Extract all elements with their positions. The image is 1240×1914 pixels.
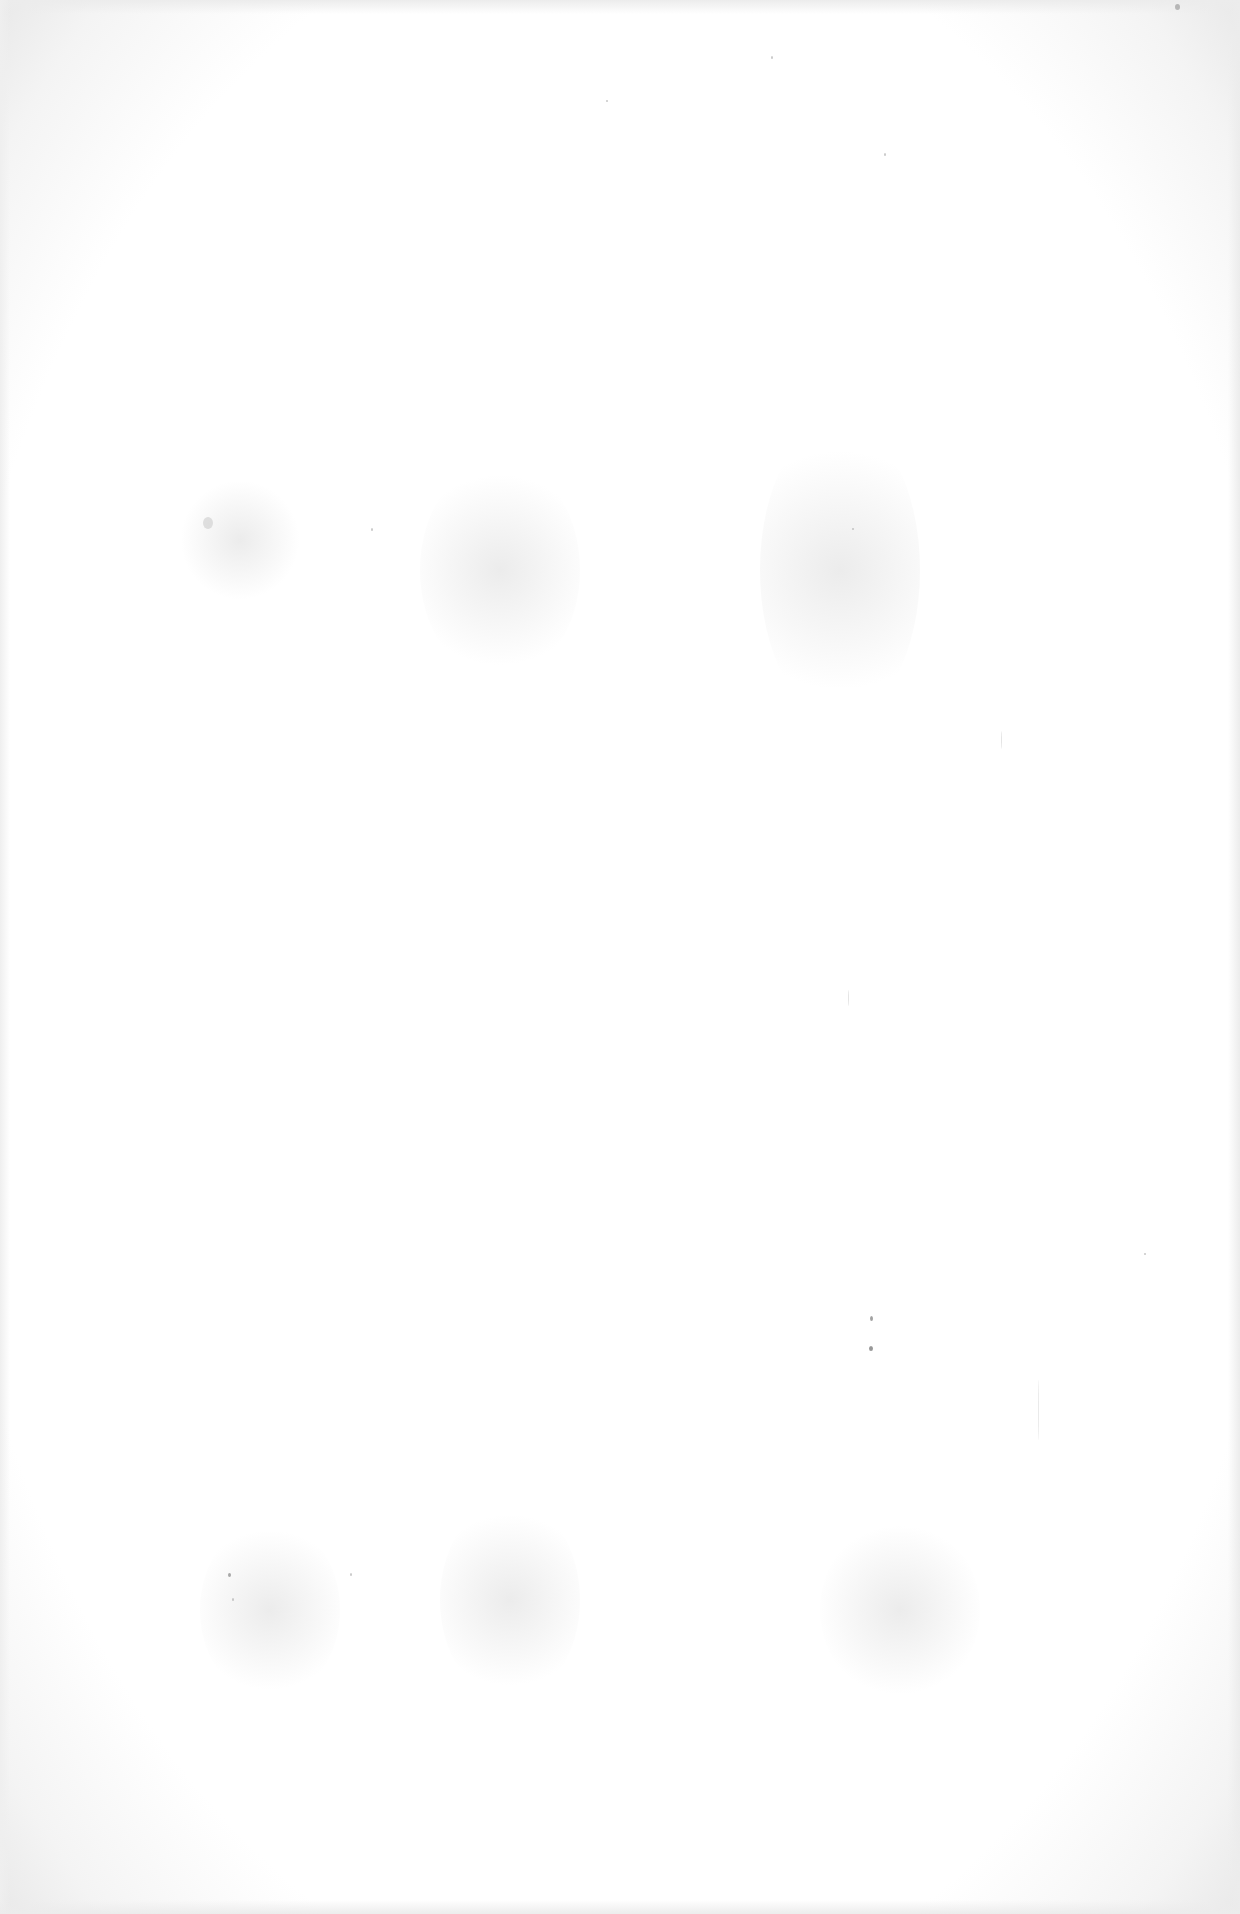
scan-speck: [232, 1598, 234, 1601]
scan-speck: [606, 100, 608, 102]
scan-speck: [1175, 4, 1180, 10]
show-through-smudge: [420, 460, 580, 680]
page-edge-shadow-left: [0, 0, 10, 1914]
blank-document-page: [0, 0, 1240, 1914]
scan-speck: [203, 517, 213, 529]
scan-speck: [884, 153, 886, 156]
scan-speck: [350, 1573, 352, 1576]
page-edge-shadow-top: [0, 0, 1240, 14]
scan-speck: [1001, 731, 1002, 749]
show-through-smudge: [200, 1520, 340, 1700]
scan-speck: [1038, 1380, 1039, 1440]
show-through-smudge: [820, 1520, 980, 1700]
page-edge-shadow-bottom: [0, 1900, 1240, 1914]
scan-speck: [848, 990, 849, 1006]
scan-speck: [1144, 1253, 1146, 1255]
scan-speck: [852, 528, 854, 530]
scan-speck: [870, 1316, 873, 1321]
scan-speck: [869, 1346, 873, 1351]
scan-speck: [771, 56, 773, 59]
show-through-smudge: [760, 420, 920, 720]
page-edge-shadow-right: [1228, 0, 1240, 1914]
scan-speck: [228, 1573, 231, 1577]
show-through-smudge: [440, 1500, 580, 1700]
show-through-smudge: [180, 480, 300, 600]
scan-speck: [371, 528, 373, 531]
